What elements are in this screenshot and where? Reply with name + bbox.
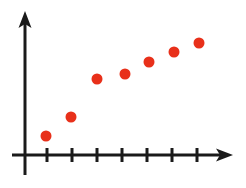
data-point-6: [169, 47, 180, 58]
plot-canvas: [0, 0, 246, 188]
data-point-1: [41, 131, 52, 142]
scatter-plot-figure: [0, 0, 246, 188]
data-point-7: [194, 38, 205, 49]
data-point-4: [120, 69, 131, 80]
data-point-2: [66, 112, 77, 123]
data-point-5: [144, 57, 155, 68]
data-point-3: [92, 74, 103, 85]
